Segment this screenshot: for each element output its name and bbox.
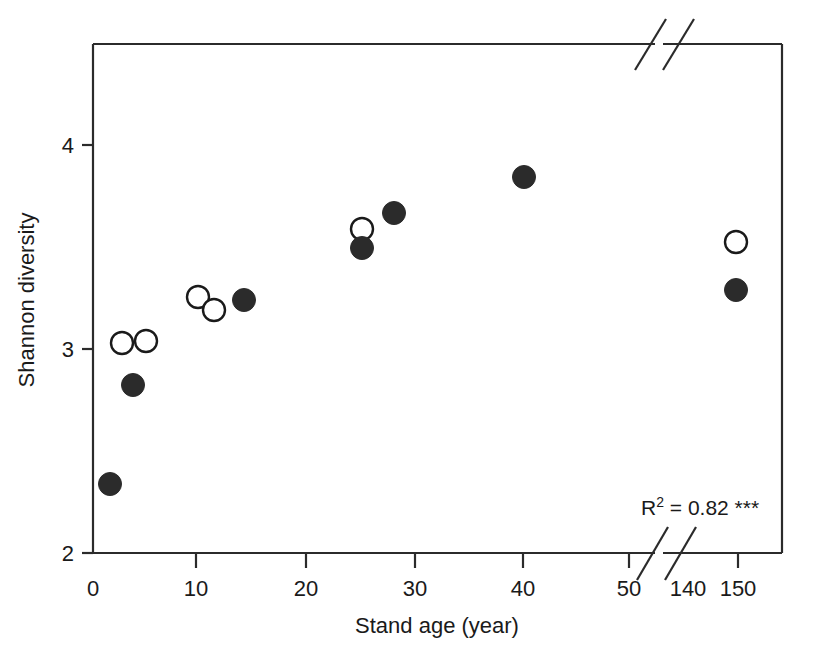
r-squared-base: R	[641, 496, 656, 519]
y-axis-title: Shannon diversity	[14, 213, 39, 388]
r-squared-superscript: 2	[656, 494, 664, 510]
x-axis-ticks	[196, 553, 738, 568]
data-point-open	[135, 330, 157, 352]
data-point-filled	[351, 237, 374, 260]
data-point-filled	[122, 374, 145, 397]
x-axis-title: Stand age (year)	[355, 613, 519, 638]
data-point-open	[203, 299, 225, 321]
y-axis-ticks	[82, 145, 93, 553]
svg-text:R2 = 0.82 ***: R2 = 0.82 ***	[641, 494, 759, 519]
y-tick-label-2: 2	[62, 541, 74, 566]
plot-svg: 2 3 4 0 10 20 30 40 50 140 150 Stand age…	[0, 0, 814, 659]
open-circle-series	[111, 218, 747, 354]
x-tick-label-140: 140	[670, 576, 707, 601]
x-tick-label-10: 10	[184, 576, 208, 601]
data-point-open	[111, 332, 133, 354]
data-point-filled	[513, 166, 536, 189]
y-axis-tick-labels: 2 3 4	[62, 133, 74, 566]
x-tick-label-40: 40	[511, 576, 535, 601]
data-point-filled	[99, 473, 122, 496]
x-tick-label-150: 150	[720, 576, 757, 601]
x-tick-label-50: 50	[617, 576, 641, 601]
y-tick-label-4: 4	[62, 133, 74, 158]
r-squared-rest: = 0.82 ***	[664, 496, 759, 519]
r-squared-annotation: R2 = 0.82 ***	[641, 494, 759, 519]
data-point-filled	[725, 279, 748, 302]
data-point-filled	[383, 202, 406, 225]
scatter-plot-figure: 2 3 4 0 10 20 30 40 50 140 150 Stand age…	[0, 0, 814, 659]
data-point-open	[725, 231, 747, 253]
data-point-filled	[233, 289, 256, 312]
x-axis-tick-labels: 0 10 20 30 40 50 140 150	[87, 576, 756, 601]
y-tick-label-3: 3	[62, 337, 74, 362]
filled-circle-series	[99, 166, 748, 496]
x-tick-label-20: 20	[294, 576, 318, 601]
x-tick-label-0: 0	[87, 576, 99, 601]
x-tick-label-30: 30	[403, 576, 427, 601]
